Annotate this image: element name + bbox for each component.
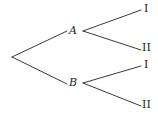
tree-branches-group: [0, 0, 158, 115]
node-label-b: B: [69, 77, 77, 88]
outcome-label-a-one: I: [144, 3, 149, 14]
outcome-label-a-two: II: [142, 42, 151, 53]
node-label-a: A: [69, 25, 77, 36]
probability-tree-diagram: A B I II I II: [0, 0, 158, 115]
outcome-label-b-one: I: [144, 59, 149, 70]
diagram-background: [0, 0, 158, 115]
outcome-label-b-two: II: [142, 99, 151, 110]
